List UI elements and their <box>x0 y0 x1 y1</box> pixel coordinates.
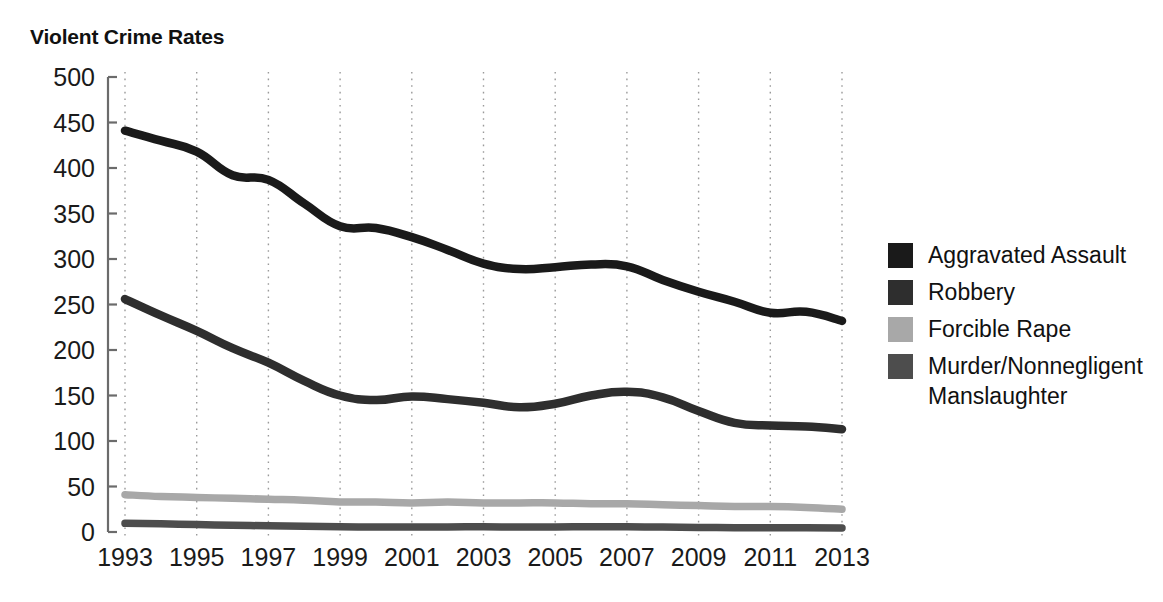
x-tick-label-2001: 2001 <box>384 543 440 571</box>
x-axis-group: 1993199519971999200120032005200720092011… <box>97 543 870 571</box>
legend-swatch-aggravated-assault <box>888 243 913 268</box>
y-tick-label-400: 400 <box>53 154 95 182</box>
chart-plot-area: 050100150200250300350400450500 199319951… <box>0 0 1163 602</box>
legend-label-robbery: Robbery <box>928 279 1015 305</box>
violent-crime-rates-chart: Violent Crime Rates 05010015020025030035… <box>0 0 1163 602</box>
series-line-murder-nonnegligent-manslaughter <box>125 523 842 528</box>
legend-swatch-murder-nonnegligent <box>888 354 913 379</box>
x-tick-label-2007: 2007 <box>599 543 655 571</box>
legend-swatch-robbery <box>888 280 913 305</box>
x-tick-label-1993: 1993 <box>97 543 153 571</box>
y-axis-group: 050100150200250300350400450500 <box>53 63 117 546</box>
y-tick-label-500: 500 <box>53 63 95 91</box>
y-tick-label-250: 250 <box>53 291 95 319</box>
legend-label-murder-nonnegligent-line2: Manslaughter <box>928 383 1068 409</box>
x-tick-label-2013: 2013 <box>814 543 870 571</box>
legend-label-aggravated-assault: Aggravated Assault <box>928 242 1127 268</box>
x-tick-label-1997: 1997 <box>241 543 297 571</box>
y-tick-label-300: 300 <box>53 245 95 273</box>
x-tick-label-2003: 2003 <box>456 543 512 571</box>
x-tick-label-1995: 1995 <box>169 543 225 571</box>
series-line-forcible-rape <box>125 495 842 510</box>
y-tick-label-350: 350 <box>53 200 95 228</box>
x-tick-label-2009: 2009 <box>671 543 727 571</box>
y-tick-label-0: 0 <box>81 518 95 546</box>
legend-label-forcible-rape: Forcible Rape <box>928 316 1071 342</box>
y-tick-label-450: 450 <box>53 109 95 137</box>
y-tick-label-200: 200 <box>53 336 95 364</box>
y-tick-label-150: 150 <box>53 382 95 410</box>
x-tick-label-1999: 1999 <box>312 543 368 571</box>
y-tick-label-100: 100 <box>53 427 95 455</box>
legend-swatch-forcible-rape <box>888 317 913 342</box>
y-tick-label-50: 50 <box>67 473 95 501</box>
x-tick-label-2005: 2005 <box>527 543 583 571</box>
legend-label-murder-nonnegligent: Murder/Nonnegligent <box>928 353 1143 379</box>
x-tick-label-2011: 2011 <box>743 543 797 571</box>
legend-group: Aggravated AssaultRobberyForcible RapeMu… <box>888 242 1143 409</box>
